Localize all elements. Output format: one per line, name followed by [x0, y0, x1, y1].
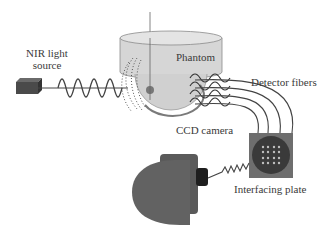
- nir-light-source-icon: [16, 78, 42, 94]
- phantom-label: Phantom: [176, 51, 215, 63]
- nir-tomography-diagram: [0, 0, 329, 234]
- ccd-camera-label: CCD camera: [176, 124, 233, 136]
- nir-source-label: NIR light source: [22, 47, 72, 71]
- nir-source-label-line1: NIR light: [22, 47, 72, 59]
- detector-fibers-label: Detector fibers: [251, 76, 317, 88]
- imaging-light: [208, 163, 249, 178]
- interfacing-plate: [249, 133, 293, 178]
- nir-source-label-line2: source: [22, 59, 72, 71]
- interfacing-plate-label: Interfacing plate: [234, 183, 306, 195]
- ccd-camera-icon: [132, 154, 208, 225]
